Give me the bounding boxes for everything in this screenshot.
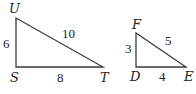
vertex-label-t: T (100, 70, 110, 85)
triangle-ust: U S T 6 8 10 (3, 1, 110, 85)
side-label-st: 8 (57, 70, 64, 85)
side-label-fd: 3 (125, 41, 132, 56)
triangle-ust-shape (16, 18, 103, 67)
triangle-fde: F D E 3 4 5 (125, 17, 194, 84)
diagram-canvas: U S T 6 8 10 F D E 3 4 5 (0, 0, 196, 94)
side-label-us: 6 (3, 36, 10, 51)
vertex-label-d: D (129, 69, 141, 84)
side-label-ut: 10 (62, 26, 75, 41)
vertex-label-f: F (131, 17, 142, 32)
vertex-label-s: S (10, 70, 19, 85)
side-label-fe: 5 (165, 33, 172, 48)
vertex-label-u: U (9, 1, 21, 16)
vertex-label-e: E (183, 69, 194, 84)
side-label-de: 4 (159, 69, 166, 84)
triangle-fde-shape (136, 33, 186, 67)
